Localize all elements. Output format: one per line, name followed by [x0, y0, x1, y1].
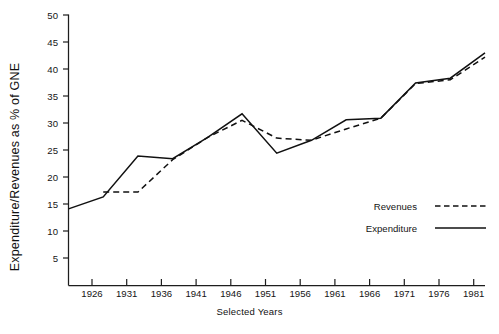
x-tick-label: 1961 [324, 288, 345, 299]
x-axis-tick-labels: 1926 1931 1936 1941 1946 1951 1956 1961 … [81, 288, 484, 299]
y-tick-label: 5 [53, 253, 58, 264]
y-tick-label: 15 [47, 199, 58, 210]
y-axis-ticks [63, 15, 69, 258]
x-axis-title: Selected Years [0, 306, 499, 317]
y-tick-label: 25 [47, 145, 58, 156]
x-tick-label: 1981 [463, 288, 484, 299]
y-tick-label: 35 [47, 91, 58, 102]
y-tick-label: 20 [47, 172, 58, 183]
x-tick-label: 1936 [151, 288, 172, 299]
plot-area: 5 10 15 20 25 30 35 40 45 50 [0, 0, 499, 334]
line-chart: Expenditure/Revenues as % of GNE 5 10 15… [0, 0, 499, 334]
legend-label-expenditure: Expenditure [366, 223, 417, 234]
x-tick-label: 1956 [290, 288, 311, 299]
x-tick-label: 1976 [428, 288, 449, 299]
legend-label-revenues: Revenues [374, 201, 417, 212]
y-tick-label: 50 [47, 10, 58, 21]
x-tick-label: 1941 [185, 288, 206, 299]
y-tick-label: 30 [47, 118, 58, 129]
x-tick-label: 1951 [255, 288, 276, 299]
x-tick-label: 1926 [81, 288, 102, 299]
x-tick-label: 1946 [220, 288, 241, 299]
y-axis-tick-labels: 5 10 15 20 25 30 35 40 45 50 [47, 10, 58, 264]
legend: Revenues Expenditure [366, 201, 486, 234]
series-line-revenues [103, 57, 485, 192]
y-tick-label: 40 [47, 64, 58, 75]
x-tick-label: 1966 [359, 288, 380, 299]
x-axis-ticks [92, 279, 474, 286]
y-tick-label: 45 [47, 37, 58, 48]
y-tick-label: 10 [47, 226, 58, 237]
series-line-expenditure [69, 53, 486, 209]
x-tick-label: 1971 [394, 288, 415, 299]
x-tick-label: 1931 [116, 288, 137, 299]
